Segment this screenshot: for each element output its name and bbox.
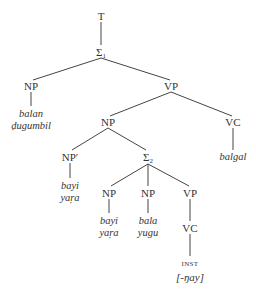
edge-np-s2: [108, 128, 146, 150]
node-np-subject: NP: [24, 80, 38, 92]
edge-s2-vp: [148, 164, 189, 186]
feature-inst: INST: [182, 260, 199, 268]
edge-s1-np: [33, 58, 101, 80]
word-balan: balan: [19, 108, 43, 119]
edge-np-npprime: [72, 128, 108, 150]
syntax-tree: T Σ1 NP balan ḍugumbil VP NP VC balgal N…: [0, 0, 256, 290]
node-np-prime: NP′: [62, 151, 78, 163]
node-np-s2-a: NP: [102, 187, 116, 199]
edge-vp-vc: [171, 92, 232, 116]
node-vc-s2: VC: [182, 222, 197, 234]
edge-vp-np: [110, 92, 171, 116]
node-sigma-2: Σ2: [143, 151, 153, 165]
node-np-s2-b: NP: [141, 187, 155, 199]
word-yara: yaṛa: [59, 192, 79, 204]
morpheme-ngay: [-ŋay]: [176, 271, 204, 283]
node-vp-s2: VP: [183, 187, 197, 199]
node-sigma-1: Σ1: [96, 46, 106, 60]
word-balgal: balgal: [220, 151, 247, 162]
node-vp-main: VP: [164, 80, 178, 92]
word-bayi-2: bayi: [100, 215, 118, 226]
node-np-object: NP: [101, 116, 115, 128]
edge-s1-vp: [101, 58, 170, 80]
word-yara-2: yaṛa: [98, 227, 118, 239]
node-t: T: [98, 10, 105, 22]
word-bala: bala: [139, 215, 158, 226]
node-vc-main: VC: [225, 116, 240, 128]
edge-s2-np-a: [111, 164, 148, 186]
word-dugumbil: ḍugumbil: [11, 120, 51, 131]
word-yugu: yugu: [137, 227, 158, 238]
word-bayi: bayi: [61, 180, 79, 191]
tree-edges: [31, 22, 233, 256]
